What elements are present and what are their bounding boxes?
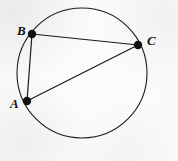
chord-ac — [27, 45, 138, 101]
vertex-dot-b — [28, 30, 36, 38]
vertex-dot-a — [23, 97, 31, 105]
geometry-figure: B C A — [0, 0, 178, 161]
vertex-dot-c — [134, 41, 142, 49]
vertex-label-a: A — [10, 97, 19, 110]
vertex-label-b: B — [17, 24, 26, 37]
chord-bc — [32, 34, 138, 45]
vertex-label-c: C — [147, 34, 156, 47]
chord-ba — [27, 34, 32, 101]
geometry-canvas — [0, 0, 178, 161]
